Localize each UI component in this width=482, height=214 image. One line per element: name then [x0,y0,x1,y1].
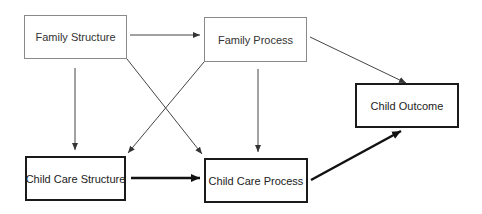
edge-family-process-to-child-outcome [310,37,406,83]
path-diagram: Family Structure Family Process Child Ou… [0,0,482,214]
node-label: Child Outcome [371,100,444,112]
node-label: Family Structure [35,31,115,43]
node-label: Child Care Process [209,175,304,187]
node-child-care-structure: Child Care Structure [25,156,126,201]
node-label: Family Process [218,34,293,46]
node-family-process: Family Process [204,17,307,62]
node-child-care-process: Child Care Process [204,158,308,203]
node-label: Child Care Structure [26,173,126,185]
edge-child-care-process-to-child-outcome [311,131,401,180]
edge-family-process-to-child-care-structure [128,62,204,153]
node-child-outcome: Child Outcome [355,83,459,128]
node-family-structure: Family Structure [24,15,127,59]
edge-family-structure-to-child-care-process [127,59,202,154]
